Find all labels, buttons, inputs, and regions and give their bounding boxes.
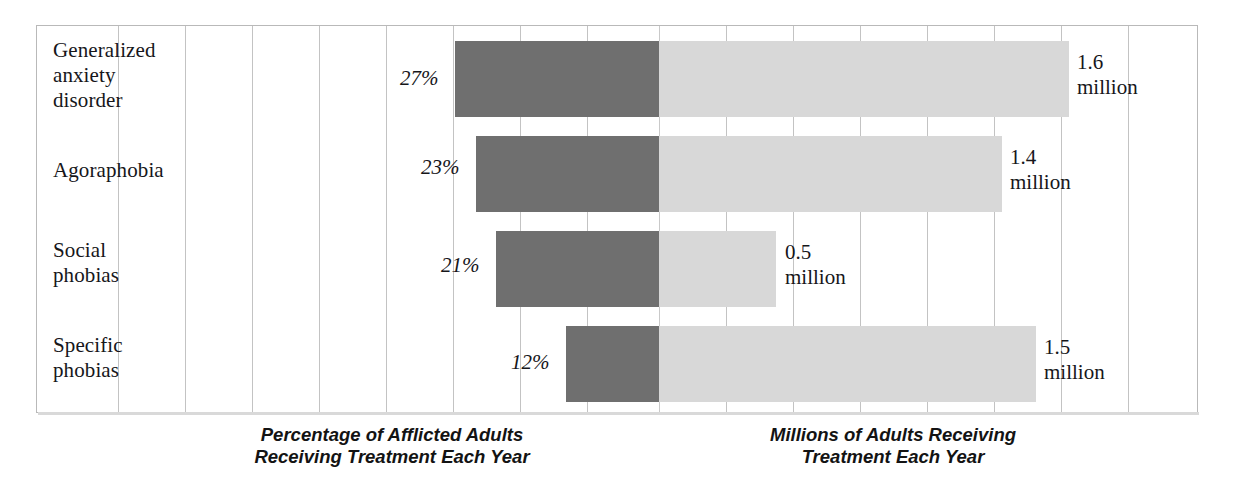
chart-page: Generalized anxiety disorder 27% 1.6 mil…	[0, 0, 1234, 502]
bar-right-segment	[659, 326, 1036, 402]
caption-right-axis: Millions of Adults Receiving Treatment E…	[648, 424, 1138, 468]
bar-right-segment	[659, 136, 1002, 212]
category-label: Generalized anxiety disorder	[53, 38, 156, 113]
bar-left-segment	[476, 136, 659, 212]
value-label-millions: 1.6 million	[1077, 50, 1138, 100]
chart-plot-area: Generalized anxiety disorder 27% 1.6 mil…	[36, 25, 1198, 413]
value-label-percent: 21%	[441, 253, 480, 278]
category-label: Agoraphobia	[53, 158, 164, 183]
bar-right-segment	[659, 41, 1069, 117]
bar-left-segment	[566, 326, 659, 402]
bar-right-segment	[659, 231, 776, 307]
category-label: Specific phobias	[53, 333, 123, 383]
category-label: Social phobias	[53, 238, 119, 288]
caption-left-axis: Percentage of Afflicted Adults Receiving…	[152, 424, 632, 468]
value-label-percent: 23%	[421, 155, 460, 180]
bar-left-segment	[496, 231, 659, 307]
value-label-millions: 0.5 million	[785, 240, 846, 290]
value-label-millions: 1.5 million	[1044, 335, 1105, 385]
bar-left-segment	[455, 41, 659, 117]
gridline-6	[453, 26, 454, 412]
gridline-5	[386, 26, 387, 412]
value-label-percent: 12%	[511, 350, 550, 375]
gridline-4	[319, 26, 320, 412]
gridline-3	[252, 26, 253, 412]
value-label-percent: 27%	[400, 66, 439, 91]
gridline-2	[185, 26, 186, 412]
value-label-millions: 1.4 million	[1010, 145, 1071, 195]
